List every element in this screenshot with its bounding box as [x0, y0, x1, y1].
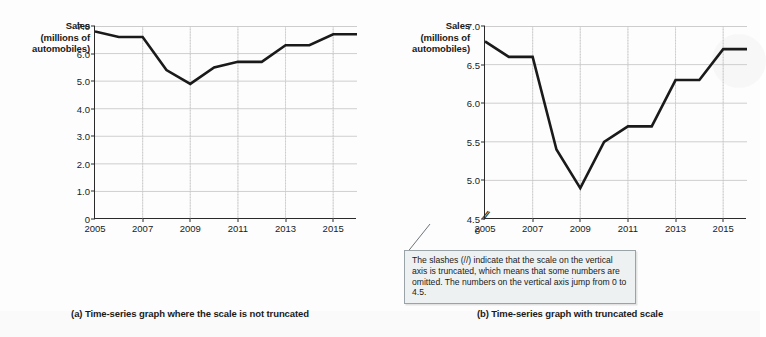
- y-tick-mark: [481, 141, 485, 142]
- y-tick-mark: [481, 26, 485, 27]
- y-tick-label: 6.0: [77, 48, 90, 59]
- y-tick-mark: [91, 81, 95, 82]
- y-axis-label-b-line3: automobiles): [390, 43, 470, 55]
- x-tick-mark: [627, 218, 628, 222]
- caption-b: (b) Time-series graph with truncated sca…: [380, 308, 760, 319]
- y-tick-label: 5.0: [467, 175, 480, 186]
- y-tick-mark: [91, 108, 95, 109]
- chart-b: Sales (millions of automobiles) // 7.06.…: [408, 12, 752, 244]
- x-tick-label: 2007: [522, 223, 543, 234]
- x-tick-label: 2011: [618, 223, 638, 234]
- x-tick-mark: [675, 218, 676, 222]
- x-tick-label: 2007: [132, 223, 153, 234]
- x-tick-mark: [237, 218, 238, 222]
- y-tick-mark: [91, 136, 95, 137]
- x-tick-label: 2009: [570, 223, 591, 234]
- x-tick-label: 2015: [323, 223, 344, 234]
- chart-a: Sales (millions of automobiles) 7.06.05.…: [18, 12, 364, 244]
- x-tick-label: 2011: [228, 223, 248, 234]
- y-tick-label: 4.0: [77, 103, 90, 114]
- caption-a: (a) Time-series graph where the scale is…: [0, 308, 380, 319]
- x-tick-mark: [532, 218, 533, 222]
- x-tick-label: 2005: [474, 223, 495, 234]
- series-line-a: [95, 26, 357, 219]
- plot-area-a: 7.06.05.04.03.02.01.00200520072009201120…: [94, 26, 356, 219]
- x-tick-label: 2013: [665, 223, 686, 234]
- y-tick-label: 5.0: [77, 76, 90, 87]
- y-axis-label-b-line1: Sales: [390, 20, 470, 32]
- y-tick-label: 5.5: [467, 136, 480, 147]
- x-tick-label: 2005: [84, 223, 105, 234]
- x-tick-mark: [190, 218, 191, 222]
- x-tick-label: 2009: [180, 223, 201, 234]
- x-tick-mark: [142, 218, 143, 222]
- y-tick-label: 2.0: [77, 158, 90, 169]
- y-tick-mark: [91, 26, 95, 27]
- plot-area-b: // 7.06.56.05.55.04.50200520072009201120…: [484, 26, 746, 219]
- callout-box: The slashes (//) indicate that the scale…: [404, 250, 636, 304]
- y-tick-label: 1.0: [77, 186, 90, 197]
- x-tick-mark: [580, 218, 581, 222]
- y-tick-mark: [91, 219, 95, 220]
- y-tick-label: 6.0: [467, 98, 480, 109]
- y-tick-mark: [481, 103, 485, 104]
- y-tick-label: 7.0: [77, 21, 90, 32]
- y-tick-mark: [481, 219, 485, 220]
- series-line-b: [485, 26, 747, 219]
- y-tick-mark: [481, 180, 485, 181]
- y-axis-label-a-line2: (millions of: [10, 32, 90, 44]
- y-axis-label-b: Sales (millions of automobiles): [390, 20, 470, 55]
- x-tick-mark: [333, 218, 334, 222]
- x-tick-label: 2015: [713, 223, 734, 234]
- y-tick-label: 7.0: [467, 21, 480, 32]
- y-tick-mark: [91, 163, 95, 164]
- x-tick-label: 2013: [275, 223, 296, 234]
- y-tick-label: 6.5: [467, 59, 480, 70]
- y-tick-label: 3.0: [77, 131, 90, 142]
- y-tick-mark: [91, 191, 95, 192]
- y-axis-label-b-line2: (millions of: [390, 32, 470, 44]
- y-tick-mark: [91, 53, 95, 54]
- x-tick-mark: [285, 218, 286, 222]
- y-tick-mark: [481, 64, 485, 65]
- x-tick-mark: [723, 218, 724, 222]
